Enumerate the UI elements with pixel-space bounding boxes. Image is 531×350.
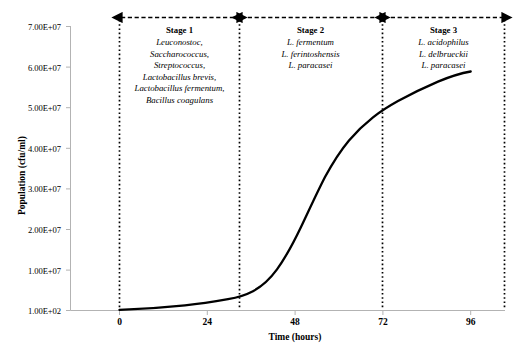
stage-1-species: Leuconostoc, [119,37,240,49]
y-axis-title: Population (cfu/ml) [17,136,27,215]
stage-2-annotation: Stage 2 L. fermentum L. ferintoshensis L… [239,25,382,72]
stage-1-species: Saccharococcus, [119,49,240,61]
x-tick-label: 48 [275,317,315,327]
x-axis-ticks [120,311,471,316]
x-axis-title: Time (hours) [195,332,395,342]
stage-2-title: Stage 2 [239,25,382,37]
stage-1-species: Lactobacillus fermentum, [119,83,240,95]
stage-2-species: L. paracasei [239,60,382,72]
x-tick-label: 24 [187,317,227,327]
stage-3-annotation: Stage 3 L. acidophilus L. delbrueckii L.… [382,25,505,72]
stage-1-species: Bacillus coagulans [119,95,240,107]
stage-2-species: L. fermentum [239,37,382,49]
stage-3-title: Stage 3 [382,25,505,37]
stage-2-species: L. ferintoshensis [239,49,382,61]
y-tick-label: 1.00E+07 [5,266,61,276]
stage-1-species: Streptococcus, [119,60,240,72]
x-tick-label: 72 [363,317,403,327]
y-axis-ticks [66,27,71,311]
stage-3-species: L. acidophilus [382,37,505,49]
stage-1-title: Stage 1 [119,25,240,37]
y-tick-label: 5.00E+07 [5,103,61,113]
y-tick-label: 2.00E+07 [5,225,61,235]
y-tick-label: 6.00E+07 [5,63,61,73]
stage-3-species: L. delbrueckii [382,49,505,61]
y-tick-label: 7.00E+07 [5,22,61,32]
y-tick-label: 1.00E+02 [5,306,61,316]
growth-curve-line [120,72,471,310]
growth-curve-chart: 7.00E+07 6.00E+07 5.00E+07 4.00E+07 3.00… [0,0,531,350]
y-tick-label: 4.00E+07 [5,144,61,154]
x-tick-label: 96 [451,317,491,327]
stage-1-species: Lactobacillus brevis, [119,72,240,84]
stage-1-annotation: Stage 1 Leuconostoc, Saccharococcus, Str… [119,25,240,107]
x-tick-label: 0 [100,317,140,327]
y-tick-label: 3.00E+07 [5,184,61,194]
stage-3-species: L. paracasei [382,60,505,72]
